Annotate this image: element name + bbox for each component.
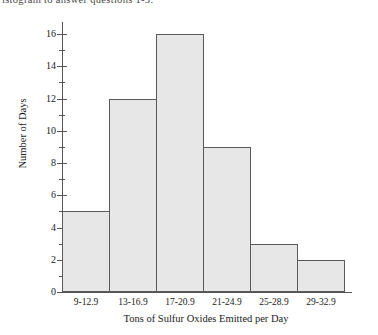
y-axis-tick-label: 16 (16, 29, 56, 39)
x-axis-tick-label: 17-20.9 (156, 296, 204, 308)
histogram-bar (156, 34, 204, 292)
y-axis-major-tick (57, 292, 67, 293)
y-axis-tick-label: 0 (16, 287, 56, 297)
histogram-bar (109, 99, 157, 293)
x-axis-tick-label: 21-24.9 (203, 296, 251, 308)
y-axis-tick-label: 14 (16, 61, 56, 71)
x-axis-tick-label: 9-12.9 (62, 296, 110, 308)
histogram-figure: 0246810121416 Number of Days 9-12.913-16… (0, 0, 378, 335)
bar-series (62, 34, 350, 292)
histogram-bar (203, 147, 251, 292)
x-axis-tick-label: 13-16.9 (109, 296, 157, 308)
x-axis-line (62, 292, 352, 293)
y-axis-tick-label: 2 (16, 255, 56, 265)
histogram-bar (250, 244, 298, 292)
y-axis-title: Number of Days (17, 74, 28, 194)
y-axis-tick-label: 4 (16, 223, 56, 233)
histogram-bar (297, 260, 345, 292)
x-axis-tick-label: 25-28.9 (250, 296, 298, 308)
x-axis-tick-label: 29-32.9 (297, 296, 345, 308)
x-axis-tick-labels: 9-12.913-16.917-20.921-24.925-28.929-32.… (62, 296, 350, 310)
x-axis-title: Tons of Sulfur Oxides Emitted per Day (62, 313, 350, 324)
histogram-bar (62, 211, 110, 292)
